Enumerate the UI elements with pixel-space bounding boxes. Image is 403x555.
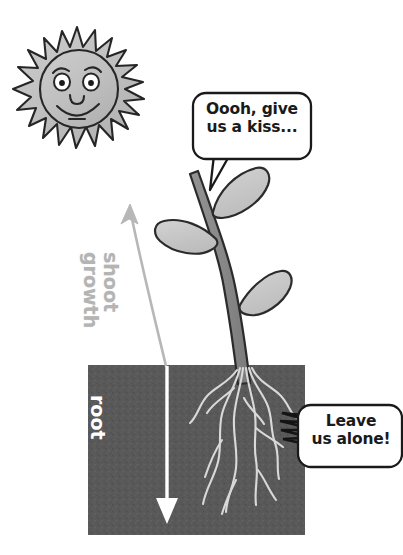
diagram-canvas [0, 0, 403, 555]
sun-with-face-icon [13, 27, 144, 148]
plant-leaf-top-right [213, 168, 269, 218]
shoot-arrow-head [121, 204, 138, 224]
soil-block [88, 365, 305, 535]
sun-pupil-left [59, 80, 65, 86]
shoot-bubble-label: Oooh, give us a kiss... [198, 100, 306, 137]
root-growth-label: root growth [68, 395, 108, 471]
plant-growth-diagram: Oooh, give us a kiss... Leave us alone! … [0, 0, 403, 555]
shoot-bubble-tail [210, 155, 228, 190]
shoot-growth-label: shoot growth [81, 252, 121, 328]
plant-leaf-lower-right [239, 271, 291, 315]
plant [155, 168, 291, 384]
root-bubble-label: Leave us alone! [305, 412, 397, 449]
sun-pupil-right [88, 80, 94, 86]
